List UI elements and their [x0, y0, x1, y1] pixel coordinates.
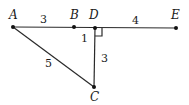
point-a: [11, 25, 15, 29]
label-b: B: [69, 8, 79, 22]
length-dc: 3: [101, 52, 108, 65]
label-e: E: [170, 8, 180, 22]
length-bd: 1: [81, 32, 88, 45]
length-ab: 3: [40, 13, 47, 26]
segment-dc: [94, 28, 95, 87]
length-ac: 5: [45, 57, 52, 70]
point-c: [92, 85, 96, 89]
length-de: 4: [132, 14, 139, 27]
point-d: [93, 26, 97, 30]
geometry-diagram: A B D E C 3 4 5 3 1: [0, 0, 189, 105]
label-d: D: [88, 8, 99, 22]
point-b: [72, 25, 76, 29]
label-a: A: [8, 8, 18, 22]
label-c: C: [90, 90, 99, 104]
point-e: [174, 26, 178, 30]
